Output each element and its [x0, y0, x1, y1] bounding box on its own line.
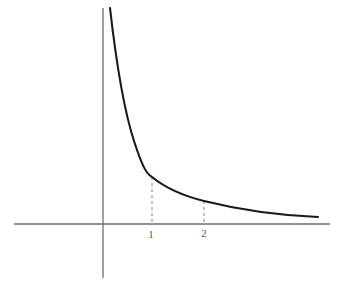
tick-label-2: 2 — [201, 228, 207, 239]
decay-curve — [110, 8, 318, 217]
tick-label-1: 1 — [148, 229, 154, 240]
figure-canvas: 1 2 — [0, 0, 354, 293]
plot-svg — [0, 0, 354, 293]
